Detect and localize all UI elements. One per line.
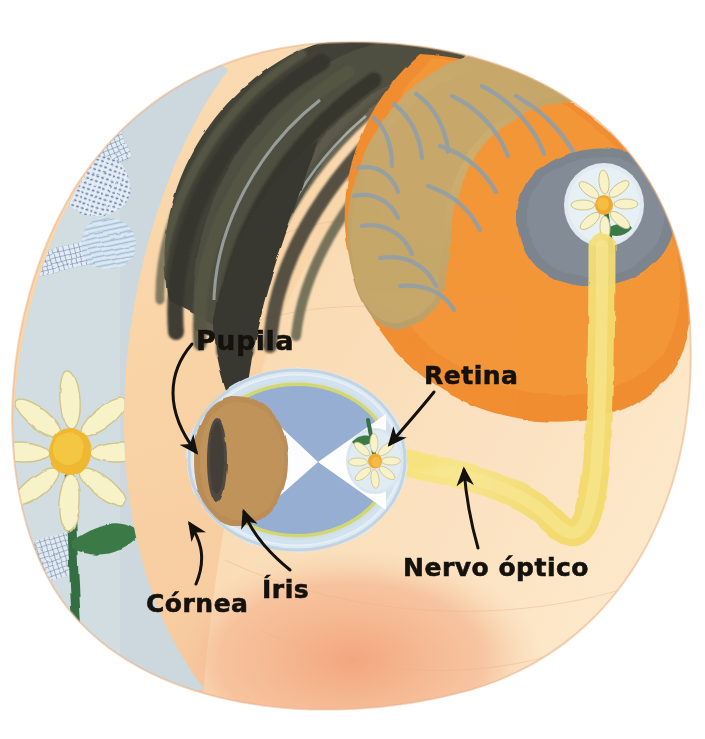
label-nervo-optico: Nervo óptico: [403, 553, 589, 582]
label-cornea: Córnea: [146, 589, 248, 618]
head: [0, 0, 705, 739]
illustration-canvas: Pupila Retina Nervo óptico Córnea Íris: [0, 0, 705, 739]
label-iris: Íris: [262, 575, 309, 604]
label-retina: Retina: [424, 361, 518, 390]
anatomy-illustration: [0, 0, 705, 739]
label-pupila: Pupila: [196, 325, 294, 356]
paper-texture: [0, 0, 705, 739]
